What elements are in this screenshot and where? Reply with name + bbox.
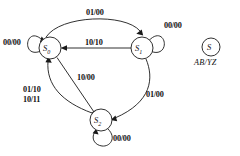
transition-label-s2-self: 00/00 — [113, 134, 131, 144]
state-label-s1: S1 — [135, 43, 142, 55]
transition-label-diagonal: 10/00 — [77, 73, 95, 83]
state-diagram-svg — [0, 0, 240, 156]
transition-label-s1-self: 00/00 — [164, 21, 182, 31]
transition-s2-self — [93, 129, 113, 146]
state-diagram-canvas: S0 S1 S2 00/00 01/00 10/10 00/00 01/00 1… — [0, 0, 240, 156]
state-label-s0-sub: 0 — [47, 49, 50, 55]
legend-notation: AB/YZ — [194, 58, 216, 67]
transition-label-horizontal: 10/10 — [85, 38, 103, 48]
transition-label-left-arc-line1: 01/10 — [23, 85, 41, 95]
state-label-s2-sub: 2 — [98, 121, 101, 127]
state-label-s0: S0 — [43, 43, 50, 55]
transition-label-right-arc: 01/00 — [146, 90, 164, 100]
transition-label-left-arc-line2: 10/11 — [23, 95, 40, 105]
transition-label-s0-self: 00/00 — [3, 38, 21, 48]
transition-label-top-arc: 01/00 — [86, 8, 104, 18]
state-label-s1-sub: 1 — [139, 49, 142, 55]
transition-s0-to-s2-diagonal — [57, 58, 97, 117]
legend-state-symbol: S — [207, 42, 211, 52]
transition-s0-to-s1-arc — [46, 19, 143, 37]
state-label-s2: S2 — [94, 115, 101, 127]
transition-s1-to-s2-arc — [111, 59, 150, 121]
transition-s2-to-s0-arc — [45, 57, 92, 113]
